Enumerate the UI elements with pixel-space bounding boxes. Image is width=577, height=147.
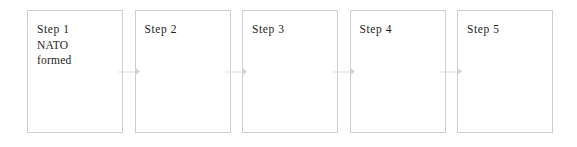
step-3-title: Step 3	[252, 22, 337, 38]
step-box-1[interactable]: Step 1 NATO formed	[27, 10, 123, 133]
arrow-right-icon	[118, 67, 140, 76]
connector-step-4-to-step-5	[446, 10, 458, 133]
process-flow-diagram: Step 1 NATO formed Step 2 Step 3	[0, 0, 577, 147]
connector-step-2-to-step-3	[231, 10, 243, 133]
step-1-detail-line-1: NATO	[37, 38, 122, 54]
step-box-5[interactable]: Step 5	[457, 10, 553, 133]
connector-step-1-to-step-2	[123, 10, 135, 133]
step-5-title: Step 5	[467, 22, 552, 38]
arrow-right-icon	[333, 67, 355, 76]
step-box-2[interactable]: Step 2	[135, 10, 231, 133]
connector-step-3-to-step-4	[338, 10, 350, 133]
step-1-title: Step 1	[37, 22, 122, 38]
step-2-title: Step 2	[145, 22, 230, 38]
step-box-3[interactable]: Step 3	[242, 10, 338, 133]
step-1-detail-line-2: formed	[37, 53, 122, 69]
arrow-right-icon	[225, 67, 247, 76]
flow-track: Step 1 NATO formed Step 2 Step 3	[27, 10, 553, 133]
arrow-right-icon	[440, 67, 462, 76]
step-4-title: Step 4	[360, 22, 445, 38]
step-box-4[interactable]: Step 4	[350, 10, 446, 133]
